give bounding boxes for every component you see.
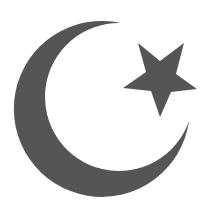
symbol-canvas: Star and crescent Crescent Five-pointed …: [0, 0, 211, 218]
star-icon: [123, 43, 197, 117]
star-and-crescent-icon: [0, 0, 211, 218]
